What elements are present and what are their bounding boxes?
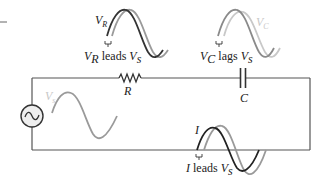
phase-bracket-icon — [216, 41, 222, 47]
i-caption: I leads Vs — [185, 161, 233, 178]
resistor: R — [119, 74, 141, 98]
vc-caption: VC lags Vs — [200, 49, 253, 66]
phase-bracket-icon — [196, 154, 202, 160]
vs-waveform: Vs — [45, 89, 117, 138]
rc-circuit-diagram: R C VR VR leads Vs VC VC lags Vs Vs I — [0, 0, 328, 186]
resistor-label: R — [123, 84, 132, 98]
capacitor-label: C — [240, 91, 249, 105]
vc-waveform: VC VC lags Vs — [200, 10, 280, 66]
i-label: I — [194, 123, 200, 137]
vr-caption: VR leads Vs — [84, 49, 142, 66]
vr-label: VR — [95, 13, 107, 29]
vr-waveform: VR VR leads Vs — [84, 10, 168, 66]
vs-label: Vs — [45, 89, 55, 105]
vc-label: VC — [256, 15, 269, 31]
phase-bracket-icon — [105, 41, 111, 47]
ac-source — [21, 105, 43, 127]
circuit-wires — [32, 78, 310, 150]
capacitor: C — [240, 68, 249, 105]
